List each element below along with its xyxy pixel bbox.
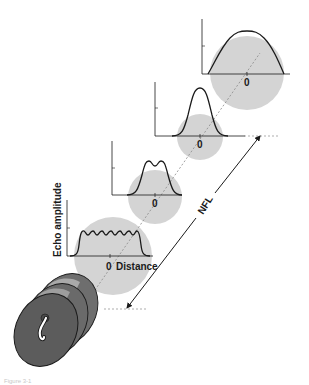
ultrasonic-beam-diagram: 0 0 0 0 Distance Echo amplitude NFL Figu…	[0, 0, 309, 385]
zero-label-3: 0	[197, 139, 203, 150]
distance-axis-label: Distance	[116, 261, 158, 272]
echo-amplitude-axis-label: Echo amplitude	[52, 182, 63, 257]
nfl-arrow-upper	[215, 136, 260, 193]
zero-label-2: 0	[152, 198, 158, 209]
figure-caption: Figure 3-1	[4, 378, 32, 384]
zero-label-4: 0	[244, 77, 250, 88]
nfl-label: NFL	[195, 194, 215, 216]
zero-label-1: 0	[106, 261, 112, 272]
